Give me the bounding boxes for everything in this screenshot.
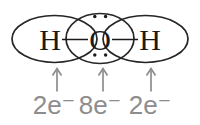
oxygen-symbol: O (89, 23, 111, 56)
up-arrow-icon (53, 69, 62, 92)
lone-pair-dot (104, 15, 107, 18)
right-hydrogen-electron-count: 2e⁻ (129, 90, 172, 120)
lone-pair-dot (93, 15, 96, 18)
figure-canvas: H O H 2e⁻ 8e⁻ 2e⁻ (0, 0, 200, 125)
up-arrow-icon (147, 69, 156, 92)
up-arrow-icon (99, 69, 108, 92)
left-hydrogen-symbol: H (39, 23, 61, 56)
right-hydrogen-symbol: H (139, 23, 161, 56)
left-hydrogen-electron-count: 2e⁻ (33, 90, 76, 120)
annotation-arrows (53, 69, 156, 92)
oxygen-electron-count: 8e⁻ (79, 90, 122, 120)
water-electron-shell-diagram: H O H 2e⁻ 8e⁻ 2e⁻ (0, 0, 200, 125)
